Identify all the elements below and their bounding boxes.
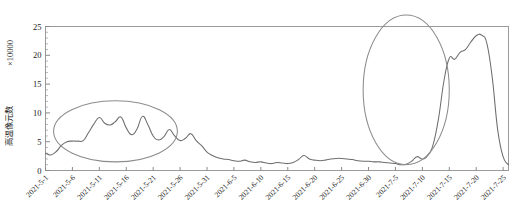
y-axis-unit-label: ×10000 (5, 40, 15, 66)
x-tick-label: 2021-7-15 (425, 173, 454, 202)
x-tick-label: 2021-5-26 (156, 173, 185, 202)
x-tick-label: 2021-6-20 (291, 173, 320, 202)
y-tick-label: 10 (33, 108, 42, 118)
data-series-group (46, 34, 509, 165)
x-tick-label: 2021-7-10 (398, 173, 427, 202)
high-temperature-pixel-count-chart: 高温像元数 ×10000 0510152025 2021-5-12021-5-6… (0, 0, 525, 224)
y-axis-title: 高温像元数 (4, 106, 14, 146)
y-axis-title-group: 高温像元数 (4, 106, 14, 146)
x-tick-label: 2021-6-25 (317, 173, 346, 202)
x-tick-label: 2021-5-11 (75, 173, 104, 202)
x-tick-label: 2021-5-21 (129, 173, 158, 202)
y-tick-label: 5 (37, 137, 41, 147)
episode-1-highlight-ellipse (54, 101, 178, 162)
x-tick-label: 2021-5-1 (24, 173, 50, 199)
x-tick-label: 2021-6-15 (264, 173, 293, 202)
x-tick-label: 2021-6-10 (237, 173, 266, 202)
series-line-high-temperature-pixel-count (46, 34, 509, 165)
x-tick-label: 2021-7-25 (479, 173, 508, 202)
annotation-ellipses-group (54, 15, 450, 165)
y-axis-ticks: 0510152025 (33, 22, 50, 176)
y-tick-label: 15 (33, 79, 42, 89)
x-tick-label: 2021-7-20 (452, 173, 481, 202)
y-tick-label: 0 (37, 166, 41, 176)
x-tick-label: 2021-5-16 (102, 173, 131, 202)
x-tick-label: 2021-6-30 (344, 173, 373, 202)
chart-canvas: 高温像元数 ×10000 0510152025 2021-5-12021-5-6… (0, 0, 525, 224)
x-tick-label: 2021-5-31 (183, 173, 212, 202)
y-tick-label: 25 (33, 22, 42, 32)
x-tick-label: 2021-6-5 (212, 173, 238, 199)
plot-frame (46, 27, 509, 171)
x-axis-ticks: 2021-5-12021-5-62021-5-112021-5-162021-5… (24, 167, 508, 202)
x-tick-label: 2021-7-5 (374, 173, 400, 199)
y-axis-unit-group: ×10000 (5, 40, 15, 66)
x-tick-label: 2021-5-6 (51, 173, 77, 199)
episode-2-highlight-ellipse (363, 15, 449, 165)
y-tick-label: 20 (33, 50, 42, 60)
